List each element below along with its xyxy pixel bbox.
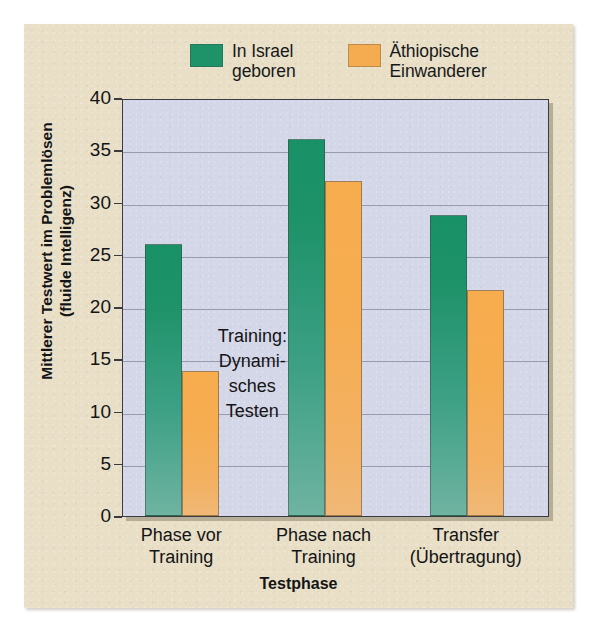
legend-label-aethiopische-einwanderer: Äthiopische Einwanderer [390, 41, 487, 81]
legend-swatch-orange [348, 44, 381, 67]
legend-label-in-israel-geboren: In Israel geboren [232, 41, 296, 81]
y-tick-label-30: 30 [65, 192, 111, 214]
y-tick-label-10: 10 [65, 401, 111, 423]
y-tick-label-5: 5 [65, 453, 111, 475]
y-tick-mark-15 [114, 359, 122, 361]
x-tick-label-3: Transfer (Übertragung) [381, 524, 551, 568]
figure-panel: In Israel geboren Äthiopische Einwandere… [24, 24, 573, 608]
legend-item-in-israel-geboren: In Israel geboren [190, 41, 296, 81]
y-tick-mark-5 [114, 464, 122, 466]
y-tick-mark-35 [114, 150, 122, 152]
y-tick-mark-30 [114, 203, 122, 205]
y-tick-label-20: 20 [65, 296, 111, 318]
y-tick-mark-0 [114, 516, 122, 518]
y-tick-mark-40 [114, 98, 122, 100]
legend-swatch-green [190, 44, 223, 67]
y-tick-mark-25 [114, 255, 122, 257]
y-tick-label-40: 40 [65, 87, 111, 109]
y-tick-mark-20 [114, 307, 122, 309]
y-tick-label-35: 35 [65, 139, 111, 161]
chart-legend: In Israel geboren Äthiopische Einwandere… [190, 41, 487, 81]
y-tick-mark-10 [114, 412, 122, 414]
bar-green-group-1 [145, 244, 182, 516]
bar-orange-group-3 [467, 290, 504, 516]
training-annotation: Training: Dynami- sches Testen [202, 324, 302, 424]
y-tick-label-15: 15 [65, 348, 111, 370]
legend-item-aethiopische-einwanderer: Äthiopische Einwanderer [348, 41, 487, 81]
x-axis-title: Testphase [24, 575, 573, 593]
bar-green-group-3 [430, 215, 467, 516]
y-tick-label-25: 25 [65, 244, 111, 266]
plot-area [122, 99, 549, 517]
bar-orange-group-2 [325, 181, 362, 516]
gridline-35 [123, 152, 548, 153]
